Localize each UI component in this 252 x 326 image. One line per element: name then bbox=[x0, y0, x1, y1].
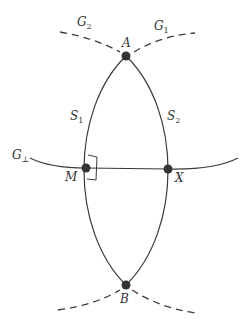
label-a: A bbox=[121, 36, 131, 50]
label-m: M bbox=[64, 170, 78, 184]
curve-g1-bottom bbox=[58, 290, 120, 310]
geometry-diagram: A B M X G2 G1 S1 S2 G⊥ bbox=[0, 0, 252, 326]
label-x: X bbox=[174, 171, 184, 185]
curve-s2 bbox=[126, 56, 168, 285]
curve-g1-top bbox=[134, 33, 195, 52]
label-s1: S1 bbox=[70, 109, 83, 125]
curve-g2-bottom bbox=[132, 290, 196, 313]
label-g-perp: G⊥ bbox=[12, 148, 29, 164]
point-x bbox=[164, 165, 173, 174]
curve-g-perp bbox=[30, 158, 238, 169]
label-g2: G2 bbox=[77, 15, 92, 31]
point-m bbox=[82, 164, 91, 173]
label-b: B bbox=[119, 292, 129, 306]
label-s2: S2 bbox=[167, 109, 180, 125]
curve-s1 bbox=[84, 56, 126, 285]
curve-g2-top bbox=[60, 32, 120, 52]
point-b bbox=[122, 281, 131, 290]
point-a bbox=[122, 52, 131, 61]
label-g1: G1 bbox=[154, 19, 169, 35]
